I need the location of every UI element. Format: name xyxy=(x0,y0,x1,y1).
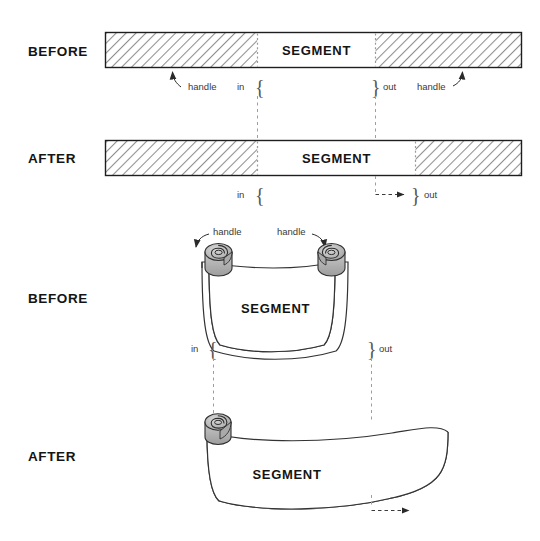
rolled-before-out-brace: } xyxy=(367,338,377,360)
after-out-label: out xyxy=(424,189,438,200)
film-segment-diagram: BEFORE handle in { } out handle xyxy=(0,0,540,541)
after-right-handle-region xyxy=(416,141,522,176)
before-out-brace: } xyxy=(371,76,381,98)
diagram-canvas: BEFORE handle in { } out handle xyxy=(0,0,540,541)
rolled-right-handle-label: handle xyxy=(277,226,306,237)
rolled-before-out-label: out xyxy=(379,343,393,354)
before-out-label: out xyxy=(383,81,397,92)
rolled-before-in-brace: { xyxy=(208,338,218,360)
rolled-left-handle-leader xyxy=(196,234,209,247)
panel-rolled-before: BEFORE handle handle xyxy=(28,226,393,420)
rolled-after-ribbon-face xyxy=(207,432,448,509)
panel-flat-before: BEFORE handle in { } out handle xyxy=(28,33,522,141)
after-left-handle-region xyxy=(106,141,258,176)
before-right-handle-region xyxy=(376,33,522,68)
after-segment-label: SEGMENT xyxy=(302,151,371,166)
after-in-brace: { xyxy=(255,184,265,206)
rolled-before-right-handle xyxy=(318,244,345,277)
before-left-handle-region xyxy=(106,33,258,68)
before-right-handle-label: handle xyxy=(417,81,446,92)
after-in-label: in xyxy=(237,189,244,200)
rolled-after-left-handle xyxy=(205,414,231,445)
rolled-before-in-label: in xyxy=(191,343,198,354)
before-in-brace: { xyxy=(255,76,265,98)
panel-rolled-after: AFTER SEGMENT xyxy=(28,414,448,511)
before-left-handle-label: handle xyxy=(188,81,217,92)
row-label-before-rolled: BEFORE xyxy=(28,291,88,306)
rolled-after-segment-label: SEGMENT xyxy=(252,467,321,482)
after-out-brace: } xyxy=(411,184,421,206)
row-label-after-flat: AFTER xyxy=(28,151,76,166)
before-in-label: in xyxy=(237,81,244,92)
row-label-after-rolled: AFTER xyxy=(28,449,76,464)
panel-flat-after: AFTER in { } out xyxy=(28,141,522,207)
rolled-before-left-handle xyxy=(205,244,232,276)
before-right-handle-leader xyxy=(453,72,463,86)
rolled-before-segment-label: SEGMENT xyxy=(241,301,310,316)
before-segment-label: SEGMENT xyxy=(282,43,351,58)
row-label-before-flat: BEFORE xyxy=(28,44,88,59)
rolled-left-handle-label: handle xyxy=(213,226,242,237)
before-left-handle-leader xyxy=(173,72,182,87)
